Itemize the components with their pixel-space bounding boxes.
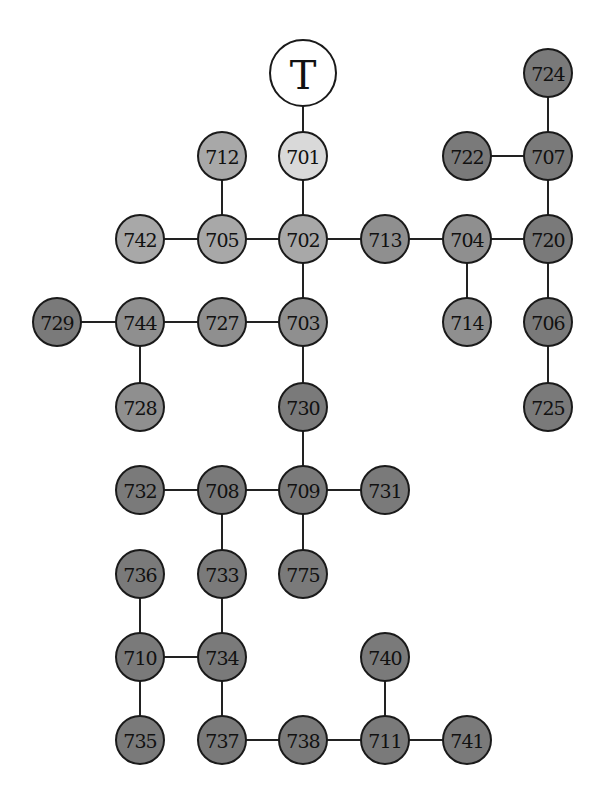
- tree-node-708: 708: [198, 466, 246, 514]
- node-label: 713: [368, 229, 401, 251]
- node-label: 742: [123, 229, 156, 251]
- tree-node-736: 736: [116, 550, 164, 598]
- node-label: 724: [531, 63, 565, 85]
- tree-node-712: 712: [198, 132, 246, 180]
- tree-node-729: 729: [33, 298, 81, 346]
- node-label: 731: [368, 480, 401, 502]
- tree-node-711: 711: [361, 716, 409, 764]
- tree-node-704: 704: [443, 215, 491, 263]
- tree-node-730: 730: [279, 383, 327, 431]
- node-label: 703: [286, 312, 319, 334]
- tree-node-740: 740: [361, 633, 409, 681]
- tree-node-701: 701: [279, 132, 327, 180]
- tree-node-742: 742: [116, 215, 164, 263]
- node-label: 706: [531, 312, 564, 334]
- tree-node-738: 738: [279, 716, 327, 764]
- node-label: 729: [40, 312, 73, 334]
- tree-node-724: 724: [524, 49, 572, 97]
- tree-node-731: 731: [361, 466, 409, 514]
- node-label: 710: [123, 647, 156, 669]
- tree-node-705: 705: [198, 215, 246, 263]
- node-label: 738: [286, 730, 319, 752]
- node-label: 744: [123, 312, 157, 334]
- tree-node-703: 703: [279, 298, 327, 346]
- node-label: 704: [450, 229, 484, 251]
- nodes-layer: T701702712705742713704714720707724722706…: [33, 40, 572, 764]
- tree-node-735: 735: [116, 716, 164, 764]
- node-label: 730: [286, 397, 319, 419]
- node-label: 741: [450, 730, 483, 752]
- tree-diagram: T701702712705742713704714720707724722706…: [0, 0, 598, 798]
- tree-node-728: 728: [116, 383, 164, 431]
- node-label: 732: [123, 480, 156, 502]
- tree-node-737: 737: [198, 716, 246, 764]
- tree-node-706: 706: [524, 298, 572, 346]
- tree-node-707: 707: [524, 132, 572, 180]
- root-node: T: [270, 40, 336, 106]
- node-label: 720: [531, 229, 564, 251]
- node-label: 735: [123, 730, 156, 752]
- node-label: 707: [531, 146, 564, 168]
- node-label: 737: [205, 730, 238, 752]
- node-label: 701: [286, 146, 319, 168]
- tree-node-702: 702: [279, 215, 327, 263]
- node-label: 740: [368, 647, 401, 669]
- tree-node-741: 741: [443, 716, 491, 764]
- node-label: T: [290, 52, 317, 98]
- node-label: 727: [205, 312, 238, 334]
- tree-node-720: 720: [524, 215, 572, 263]
- node-label: 712: [205, 146, 238, 168]
- tree-node-727: 727: [198, 298, 246, 346]
- node-label: 733: [205, 564, 238, 586]
- tree-node-722: 722: [443, 132, 491, 180]
- node-label: 702: [286, 229, 319, 251]
- tree-node-710: 710: [116, 633, 164, 681]
- tree-node-733: 733: [198, 550, 246, 598]
- node-label: 709: [286, 480, 319, 502]
- node-label: 708: [205, 480, 238, 502]
- tree-node-713: 713: [361, 215, 409, 263]
- node-label: 775: [286, 564, 319, 586]
- node-label: 725: [531, 397, 564, 419]
- node-label: 728: [123, 397, 156, 419]
- tree-node-775: 775: [279, 550, 327, 598]
- node-label: 734: [205, 647, 239, 669]
- tree-node-709: 709: [279, 466, 327, 514]
- node-label: 736: [123, 564, 156, 586]
- node-label: 711: [368, 730, 401, 752]
- node-label: 705: [205, 229, 238, 251]
- tree-node-714: 714: [443, 298, 491, 346]
- node-label: 714: [450, 312, 484, 334]
- tree-node-725: 725: [524, 383, 572, 431]
- tree-node-744: 744: [116, 298, 164, 346]
- tree-node-732: 732: [116, 466, 164, 514]
- node-label: 722: [450, 146, 483, 168]
- tree-node-734: 734: [198, 633, 246, 681]
